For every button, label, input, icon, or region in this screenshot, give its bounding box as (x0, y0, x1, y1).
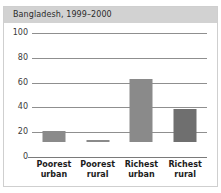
x-axis-label-line: urban (32, 170, 76, 180)
y-axis-tick-label: 20 (6, 128, 28, 136)
y-axis-tick-label: 0 (6, 153, 28, 161)
x-axis-label: Richestrural (163, 160, 207, 180)
x-axis-label-line: urban (120, 170, 164, 180)
x-axis-label: Poorestrural (76, 160, 120, 180)
x-axis-label-layer: PooresturbanPoorestruralRichesturbanRich… (32, 23, 207, 186)
x-axis-label-line: rural (76, 170, 120, 180)
y-axis-tick-label: 100 (6, 29, 28, 37)
plot-area: 020406080100 PooresturbanPoorestruralRic… (4, 23, 217, 186)
cut-off-text-remnant (0, 0, 221, 5)
x-axis-label-line: Poorest (76, 160, 120, 170)
x-axis-label-line: Richest (120, 160, 164, 170)
x-axis-label-line: Poorest (32, 160, 76, 170)
x-axis-label-slot: Pooresturban (32, 23, 76, 186)
chart-title: Bangladesh, 1999–2000 (13, 10, 112, 19)
y-axis-tick-label: 60 (6, 79, 28, 87)
x-axis-label-line: rural (163, 170, 207, 180)
x-axis-label-slot: Richestrural (163, 23, 207, 186)
y-axis-tick-label: 80 (6, 54, 28, 62)
x-axis-label: Richesturban (120, 160, 164, 180)
chart-card: Bangladesh, 1999–2000 020406080100 Poore… (3, 6, 218, 187)
chart-figure: Bangladesh, 1999–2000 020406080100 Poore… (0, 0, 221, 193)
x-axis-label: Pooresturban (32, 160, 76, 180)
y-axis-tick-label: 40 (6, 103, 28, 111)
x-axis-label-line: Richest (163, 160, 207, 170)
x-axis-label-slot: Richesturban (120, 23, 164, 186)
x-axis-label-slot: Poorestrural (76, 23, 120, 186)
